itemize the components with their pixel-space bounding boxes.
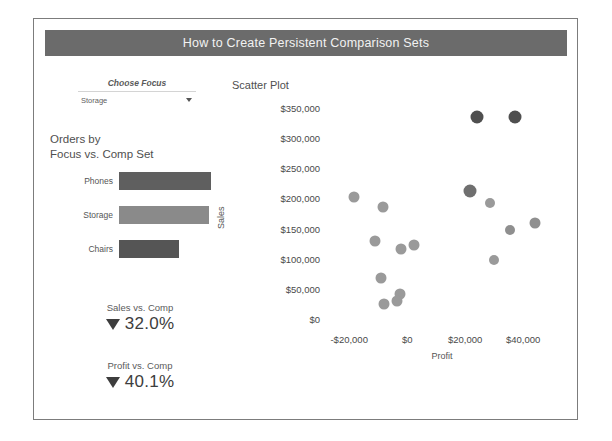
kpi-value-row: 40.1%: [45, 372, 235, 392]
y-axis-tick-label: $350,000: [280, 103, 320, 114]
y-axis-tick-label: $150,000: [280, 223, 320, 234]
kpi-value-row: 32.0%: [45, 314, 235, 334]
scatter-plot-panel: Scatter Plot Sales $0$50,000$100,000$150…: [222, 79, 562, 414]
left-panel: Choose Focus Storage Orders by Focus vs.…: [45, 64, 235, 414]
y-axis-tick-label: $0: [309, 313, 320, 324]
kpi-card: Sales vs. Comp32.0%: [45, 302, 235, 334]
scatter-point[interactable]: [485, 198, 495, 208]
x-axis-tick-label: $0: [402, 334, 413, 345]
kpi-value: 32.0%: [125, 314, 175, 334]
scatter-point[interactable]: [529, 217, 540, 228]
scatter-point[interactable]: [470, 110, 483, 123]
scatter-point[interactable]: [370, 235, 381, 246]
kpi-label: Sales vs. Comp: [45, 302, 235, 313]
scatter-point[interactable]: [409, 239, 420, 250]
x-axis-tick-label: $40,000: [506, 334, 540, 345]
dashboard-frame: How to Create Persistent Comparison Sets…: [33, 18, 578, 420]
scatter-point[interactable]: [379, 298, 390, 309]
scatter-point[interactable]: [376, 272, 387, 283]
dashboard-title-bar: How to Create Persistent Comparison Sets: [45, 30, 567, 56]
scatter-point[interactable]: [505, 225, 515, 235]
scatter-point[interactable]: [377, 202, 388, 213]
bar-chart-title: Orders by Focus vs. Comp Set: [50, 132, 154, 162]
bar-row[interactable]: Phones: [50, 172, 230, 190]
triangle-down-icon: [106, 319, 120, 330]
bar-row[interactable]: Chairs: [50, 240, 230, 258]
x-axis-title: Profit: [326, 351, 558, 361]
scatter-point[interactable]: [396, 243, 407, 254]
x-axis-ticks: -$20,000$0$20,000$40,000: [326, 334, 558, 348]
focus-dropdown-value: Storage: [78, 96, 107, 105]
scatter-plot-title: Scatter Plot: [232, 79, 289, 91]
y-axis-tick-label: $200,000: [280, 193, 320, 204]
y-axis-title: Sales: [216, 206, 226, 229]
bar-row[interactable]: Storage: [50, 206, 230, 224]
x-axis-tick-label: $20,000: [448, 334, 482, 345]
scatter-point[interactable]: [489, 255, 499, 265]
bar-chart-title-line2: Focus vs. Comp Set: [50, 147, 154, 162]
choose-focus-label: Choose Focus: [78, 78, 196, 88]
scatter-point[interactable]: [508, 110, 521, 123]
y-axis-tick-label: $100,000: [280, 253, 320, 264]
bar-fill[interactable]: [119, 206, 209, 224]
y-axis-tick-label: $250,000: [280, 163, 320, 174]
bar-fill[interactable]: [119, 172, 211, 190]
scatter-point[interactable]: [463, 185, 476, 198]
kpi-label: Profit vs. Comp: [45, 360, 235, 371]
bar-label: Chairs: [50, 244, 119, 254]
chevron-down-icon: [186, 98, 192, 102]
bar-label: Phones: [50, 176, 119, 186]
bar-chart: PhonesStorageChairs: [50, 172, 230, 274]
kpi-card: Profit vs. Comp40.1%: [45, 360, 235, 392]
bar-chart-title-line1: Orders by: [50, 132, 154, 147]
bar-fill[interactable]: [119, 240, 179, 258]
triangle-down-icon: [106, 377, 120, 388]
focus-filter: Choose Focus Storage: [78, 78, 196, 108]
y-axis-tick-label: $50,000: [286, 283, 320, 294]
focus-dropdown[interactable]: Storage: [78, 91, 196, 108]
scatter-plot-area: [326, 101, 558, 326]
kpi-block: Sales vs. Comp32.0%Profit vs. Comp40.1%: [45, 302, 235, 418]
scatter-point[interactable]: [392, 295, 403, 306]
kpi-value: 40.1%: [125, 372, 175, 392]
page-title: How to Create Persistent Comparison Sets: [183, 36, 429, 50]
scatter-point[interactable]: [348, 191, 359, 202]
y-axis-tick-label: $300,000: [280, 133, 320, 144]
x-axis-tick-label: -$20,000: [330, 334, 368, 345]
bar-label: Storage: [50, 210, 119, 220]
